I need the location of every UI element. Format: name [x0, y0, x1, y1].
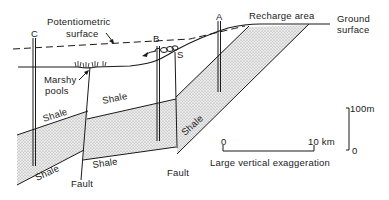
- marshy-pools-label-2: pools: [45, 85, 69, 96]
- horizontal-scale-end: 10 km: [308, 136, 335, 147]
- horizontal-scale-bar: [223, 145, 314, 151]
- marshy-pools-label: Marshy: [44, 74, 76, 85]
- fault-left-label: Fault: [71, 178, 93, 189]
- flow-arrowhead-icon: [142, 52, 148, 57]
- potentiometric-label: Potentiometric: [47, 16, 111, 27]
- fault-right-label: Fault: [167, 167, 189, 178]
- ground-surface-label: Ground: [337, 13, 370, 24]
- spring-icon: [161, 46, 179, 53]
- well-b-label: B: [153, 33, 160, 44]
- shale-label-lower-middle: Shale: [92, 156, 119, 170]
- potentiometric-surface-line: [13, 26, 245, 49]
- well-a-label: A: [216, 11, 223, 22]
- well-c-label: C: [31, 28, 38, 39]
- recharge-area-label: Recharge area: [249, 10, 315, 21]
- potentiometric-arrowhead-icon: [109, 39, 114, 44]
- cross-section-diagram: Potentiometric surface C B A S Recharge …: [0, 0, 389, 200]
- ground-surface-label-2: surface: [337, 24, 370, 35]
- scale-caption: Large vertical exaggeration: [210, 157, 330, 168]
- vertical-scale-bottom: 0: [352, 145, 357, 156]
- spring-label: S: [177, 49, 184, 60]
- aquifer-middle-block: [83, 99, 176, 160]
- shale-label-upper-middle: Shale: [101, 90, 128, 106]
- potentiometric-label-2: surface: [66, 28, 99, 39]
- horizontal-scale-start: 0: [221, 136, 226, 147]
- vertical-scale-bar: [346, 108, 349, 150]
- vertical-scale-top: 100m: [350, 103, 375, 114]
